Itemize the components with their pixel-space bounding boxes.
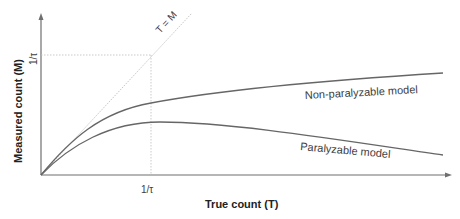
dead-time-chart: T = M Non-paralyzable model Paralyzable … (0, 0, 460, 219)
non-paralyzable-label: Non-paralyzable model (304, 83, 418, 101)
x-tick-label: 1/τ (141, 184, 153, 195)
paralyzable-label: Paralyzable model (300, 140, 391, 160)
x-axis-arrow-icon (445, 173, 452, 178)
y-axis-title: Measured count (M) (12, 59, 24, 163)
t-equals-m-label: T = M (153, 9, 179, 35)
x-axis-title: True count (T) (205, 198, 279, 210)
y-tick-label: 1/τ (28, 53, 39, 65)
y-axis-arrow-icon (39, 13, 44, 20)
